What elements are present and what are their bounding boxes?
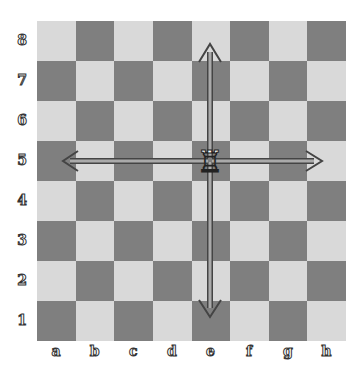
move-arrows: ♖ xyxy=(0,0,364,382)
arrow-down-icon xyxy=(199,162,221,317)
arrow-right-icon xyxy=(212,151,322,171)
arrow-left-icon xyxy=(63,151,208,171)
white-rook-icon: ♖ xyxy=(197,144,224,179)
arrow-up-icon xyxy=(199,44,221,158)
